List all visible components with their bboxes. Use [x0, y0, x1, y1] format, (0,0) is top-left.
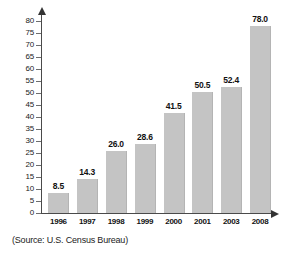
x-axis-tick-label: 1998 — [100, 217, 132, 226]
y-axis-tick — [36, 57, 41, 58]
y-axis-tick-label: 80 — [8, 17, 34, 25]
y-axis-tick-label: 70 — [8, 41, 34, 49]
y-axis-tick — [36, 105, 41, 106]
y-axis-tick-label: 5 — [8, 197, 34, 205]
bar-chart-figure: 80757065605550454035302520151050 8.514.3… — [0, 0, 286, 256]
y-axis-tick-label: 75 — [8, 29, 34, 37]
y-axis-arrow-icon — [38, 7, 46, 15]
y-axis-tick — [36, 93, 41, 94]
y-axis-tick-label: 60 — [8, 65, 34, 73]
bar — [250, 26, 271, 213]
x-axis-tick-label: 2000 — [158, 217, 190, 226]
x-axis-line — [41, 213, 273, 214]
bar — [164, 113, 185, 213]
x-axis-tick-label: 1999 — [129, 217, 161, 226]
x-axis-tick-label: 1996 — [42, 217, 74, 226]
y-axis-tick — [36, 117, 41, 118]
y-axis-tick — [36, 165, 41, 166]
y-axis-tick — [36, 45, 41, 46]
bar-value-label: 14.3 — [71, 168, 103, 177]
y-axis-tick — [36, 33, 41, 34]
bar-value-label: 26.0 — [100, 140, 132, 149]
bar — [77, 179, 98, 213]
bar — [48, 193, 69, 213]
bar-value-label: 78.0 — [244, 15, 276, 24]
y-axis-tick — [36, 153, 41, 154]
y-axis-tick-label: 0 — [8, 209, 34, 217]
bar-value-label: 8.5 — [42, 182, 74, 191]
source-note: (Source: U.S. Census Bureau) — [12, 235, 128, 245]
y-axis-tick-label: 10 — [8, 185, 34, 193]
plot-area: 80757065605550454035302520151050 8.514.3… — [0, 0, 286, 256]
bar-value-label: 52.4 — [215, 76, 247, 85]
bar-value-label: 41.5 — [158, 102, 190, 111]
y-axis-tick — [36, 201, 41, 202]
y-axis-tick — [36, 21, 41, 22]
y-axis-tick-label: 65 — [8, 53, 34, 61]
x-axis-tick-label: 2008 — [244, 217, 276, 226]
y-axis-tick-label: 20 — [8, 161, 34, 169]
x-axis-tick-label: 1997 — [71, 217, 103, 226]
y-axis-tick — [36, 177, 41, 178]
bar — [221, 87, 242, 213]
y-axis-tick-label: 40 — [8, 113, 34, 121]
y-axis-tick — [36, 69, 41, 70]
y-axis-tick — [36, 81, 41, 82]
y-axis-tick-label: 50 — [8, 89, 34, 97]
x-axis-tick-label: 2001 — [186, 217, 218, 226]
y-axis-tick-label: 35 — [8, 125, 34, 133]
y-axis-tick-label: 25 — [8, 149, 34, 157]
bar — [192, 92, 213, 213]
y-axis-tick — [36, 129, 41, 130]
bar — [106, 151, 127, 213]
bar — [135, 144, 156, 213]
y-axis-tick-label: 45 — [8, 101, 34, 109]
x-axis-tick-label: 2003 — [215, 217, 247, 226]
y-axis-tick — [36, 141, 41, 142]
y-axis-tick-label: 55 — [8, 77, 34, 85]
bar-value-label: 28.6 — [129, 133, 161, 142]
y-axis-tick-label: 30 — [8, 137, 34, 145]
y-axis-tick — [36, 213, 41, 214]
y-axis-tick-label: 15 — [8, 173, 34, 181]
bar-value-label: 50.5 — [186, 81, 218, 90]
y-axis-tick — [36, 189, 41, 190]
